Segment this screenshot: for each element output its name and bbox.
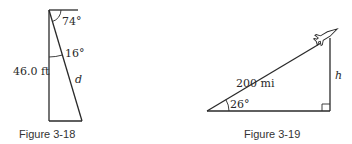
figure-caption: Figure 3-18 (19, 128, 75, 140)
figure-caption: Figure 3-19 (244, 128, 300, 140)
right-angle-marker (322, 104, 330, 111)
angle-label-74: 74° (62, 15, 82, 28)
figure-3-19: 200 mi 26° h Figure 3-19 (207, 24, 342, 140)
airplane-icon (312, 24, 340, 47)
figure-3-18: 74° 16° 46.0 ft d Figure 3-18 (13, 10, 85, 140)
angle-label-26: 26° (230, 98, 250, 111)
angle-arc-74 (52, 10, 61, 22)
hypotenuse-label: 200 mi (236, 77, 275, 90)
figures-canvas: 74° 16° 46.0 ft d Figure 3-18 200 mi 26°… (0, 0, 352, 144)
angle-label-16: 16° (65, 47, 85, 60)
angle-arc-26 (226, 100, 229, 111)
angle-arc-16 (49, 55, 62, 57)
hypotenuse-label: d (75, 73, 82, 86)
vertical-side-label: h (335, 69, 342, 82)
vertical-side-label: 46.0 ft (13, 65, 50, 78)
